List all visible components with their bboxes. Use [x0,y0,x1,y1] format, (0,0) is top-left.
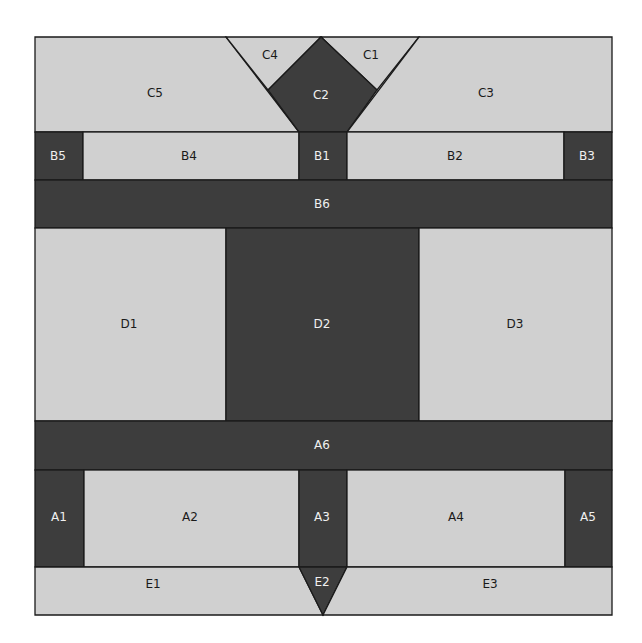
label-b2: B2 [447,149,463,163]
label-b6: B6 [314,197,330,211]
label-e2: E2 [314,575,329,589]
label-b1: B1 [314,149,330,163]
label-e1: E1 [145,577,160,591]
label-c3: C3 [478,86,494,100]
label-b5: B5 [50,149,66,163]
label-a6: A6 [314,438,330,452]
label-a2: A2 [182,510,198,524]
label-a3: A3 [314,510,330,524]
piece-e1 [35,567,323,615]
label-d1: D1 [121,317,138,331]
label-c2: C2 [313,88,329,102]
label-c4: C4 [262,48,278,62]
quilt-block-diagram: C4 C1 C5 C2 C3 B5 B4 B1 B2 B3 B6 D1 D2 D… [0,0,642,643]
piece-e3 [323,567,612,615]
label-c5: C5 [147,86,163,100]
label-b4: B4 [181,149,197,163]
label-d3: D3 [507,317,524,331]
label-d2: D2 [314,317,331,331]
label-c1: C1 [363,48,379,62]
label-e3: E3 [482,577,497,591]
label-a5: A5 [580,510,596,524]
label-a4: A4 [448,510,464,524]
label-a1: A1 [51,510,67,524]
label-b3: B3 [579,149,595,163]
